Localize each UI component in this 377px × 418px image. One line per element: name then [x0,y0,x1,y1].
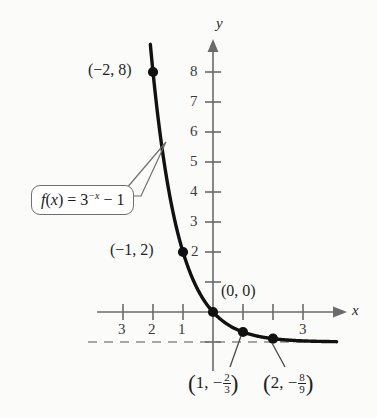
callout-variable: x [51,191,58,208]
callout-tail: − 1 [103,191,124,208]
y-tick-label-6: 6 [190,124,198,139]
fraction-denominator-9: 9 [298,383,306,395]
leader-line-point-2 [272,343,285,367]
x-tick-label-neg3: 3 [118,322,126,337]
y-tick-label-5: 5 [190,154,198,169]
fraction-numerator-8: 8 [298,372,306,383]
callout-exponent: −x [88,190,99,201]
point-label-2-sign: − [288,373,298,392]
x-tick-label-3: 3 [299,322,307,337]
x-axis-label: x [352,303,359,318]
paren-open-1: ( [188,371,196,396]
paren-close-2: ) [306,371,314,396]
y-tick-label-3: 3 [190,214,198,229]
point-label-1-sign: − [213,373,223,392]
point-label-2-x: 2, [271,373,284,392]
y-tick-label-4: 4 [190,184,198,199]
point-marker-neg2-8 [148,67,158,77]
paren-open-2: ( [263,371,271,396]
function-equation-callout: f(x) = 3−x − 1 [31,185,134,215]
y-tick-label-8: 8 [190,64,198,79]
point-label-neg2-8: (−2, 8) [88,62,132,78]
x-axis-arrow [333,307,347,318]
point-label-1-x: 1, [196,373,209,392]
x-tick-label-neg1: 1 [178,322,186,337]
fraction-8-9: 89 [298,372,306,395]
y-tick-label-7: 7 [190,94,198,109]
point-label-2-neg8over9: (2, −89) [263,372,313,397]
x-tick-label-neg2: 2 [148,322,156,337]
point-label-1-neg2over3: (1, −23) [188,372,238,397]
point-marker-0-0 [208,307,218,317]
paren-close-1: ) [231,371,239,396]
point-marker-neg1-2 [178,247,188,257]
y-axis-arrow [208,39,219,52]
point-label-neg1-2: (−1, 2) [110,242,154,258]
y-tick-label-2: 2 [191,244,199,259]
callout-close-paren: ) [58,191,63,208]
fraction-2-3: 23 [223,372,231,395]
fraction-numerator-2: 2 [223,372,231,383]
exponential-function-graph-figure: y x 8 7 6 5 4 3 2 3 2 1 3 (−2, 8) (−1, 2… [0,0,377,418]
callout-equals: = [67,191,76,208]
leader-line-point-1 [230,336,241,367]
point-marker-1-neg2over3 [238,327,248,337]
point-marker-2-neg8over9 [268,334,278,344]
fraction-denominator-3: 3 [223,383,231,395]
y-axis-label: y [216,16,223,31]
point-label-0-0: (0, 0) [221,283,256,299]
